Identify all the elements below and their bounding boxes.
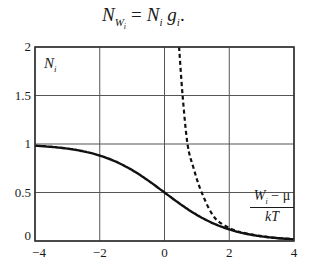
- x-tick-label: 2: [226, 245, 233, 260]
- x-tick-label: 0: [161, 245, 168, 260]
- y-tick-label: 1: [25, 136, 32, 151]
- y-axis-label: Ni: [44, 55, 57, 74]
- y-tick-label: 0.5: [15, 185, 31, 200]
- y-tick-label: 2: [25, 39, 32, 54]
- chart-plot: −4−202400.511.52: [0, 0, 315, 268]
- y-tick-label: 1.5: [15, 88, 31, 103]
- x-tick-label: −4: [32, 245, 46, 260]
- x-tick-label: −2: [93, 245, 107, 260]
- y-tick-label: 0: [25, 228, 32, 243]
- tick-labels: −4−202400.511.52: [15, 39, 298, 260]
- x-label-numerator: Wi − μ: [250, 188, 294, 208]
- x-label-denominator: kT: [250, 208, 294, 225]
- x-axis-label: Wi − μ kT: [250, 188, 294, 225]
- x-tick-label: 4: [291, 245, 298, 260]
